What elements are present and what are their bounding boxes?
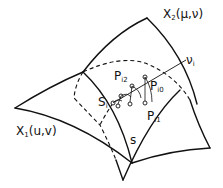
point-si-label: Si: [98, 96, 108, 110]
point-pi2-label: Pi2: [114, 70, 128, 84]
curve-s-label: s: [130, 134, 136, 146]
surface1-right-edge: [190, 100, 210, 148]
surface1-top-edge: [15, 72, 83, 108]
line-vi-label: νi: [186, 54, 195, 68]
surface1-lower-edge: [132, 148, 210, 163]
surface2-tip: [116, 160, 123, 180]
surface2-label: X2(μ,ν): [163, 8, 203, 22]
surface2-top-edge: [83, 18, 147, 72]
point-pi0-label: Pi0: [150, 80, 164, 94]
diagram-canvas: X2(μ,ν) X1(u,v) νi Pi2 Pi0 Pi1 Si s: [0, 0, 223, 188]
surfaces-drawing: [0, 0, 223, 188]
surface1-label: X1(u,v): [16, 125, 57, 139]
point-pi1-label: Pi1: [147, 110, 161, 124]
intersection-curve-s: [83, 72, 132, 163]
point-pi1: [143, 101, 147, 105]
